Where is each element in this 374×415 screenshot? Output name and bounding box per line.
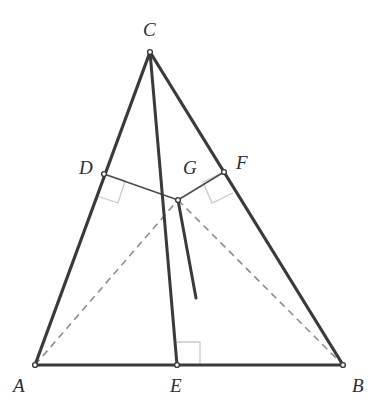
triangle-outline-group [35, 52, 343, 365]
cevian-group [150, 52, 196, 365]
vertex-label-E: E [170, 376, 182, 395]
vertex-dot-A [33, 363, 38, 368]
vertex-dot-C [148, 50, 153, 55]
segment-DG [104, 174, 178, 200]
segment-CE [150, 52, 177, 365]
segment-ray-from-G [178, 200, 196, 298]
right-angle-marks-group [97, 172, 233, 365]
vertex-dot-G [176, 198, 181, 203]
vertex-dot-B [341, 363, 346, 368]
perpendicular-segments-group [104, 172, 224, 200]
geometry-figure: C D G F A E B [0, 0, 374, 415]
dashed-segments-group [35, 200, 343, 365]
segment-AC [35, 52, 150, 365]
segment-dashed-AG [35, 200, 178, 365]
segment-dashed-GB [178, 200, 343, 365]
vertex-label-G: G [183, 158, 197, 177]
vertex-dot-F [222, 170, 227, 175]
vertex-label-F: F [236, 153, 248, 172]
vertex-dot-D [102, 172, 107, 177]
vertex-label-D: D [79, 158, 93, 177]
vertex-label-C: C [143, 20, 156, 39]
vertex-label-A: A [13, 376, 25, 395]
geometry-canvas [0, 0, 374, 415]
vertex-dot-E [175, 363, 180, 368]
vertex-label-B: B [352, 376, 364, 395]
right-angle-at-E-icon [177, 342, 200, 365]
